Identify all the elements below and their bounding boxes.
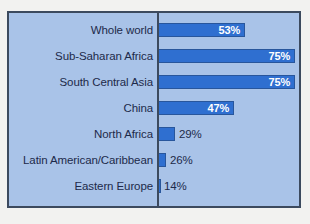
bar-row: China 47% bbox=[9, 95, 299, 121]
bar[interactable]: 75% bbox=[157, 75, 295, 89]
plot-area: Whole world 53% Sub-Saharan Africa 75% S… bbox=[9, 13, 299, 206]
bar-value-label: 14% bbox=[164, 180, 187, 192]
category-label: China bbox=[10, 102, 153, 115]
bar-track: 14% bbox=[157, 173, 299, 199]
bar-row: Latin American/Caribbean 26% bbox=[9, 147, 299, 173]
category-label: South Central Asia bbox=[10, 76, 153, 89]
bar-value-label: 29% bbox=[179, 128, 202, 140]
bar-track: 75% bbox=[157, 43, 299, 69]
bar[interactable]: 75% bbox=[157, 49, 295, 63]
bar-track: 47% bbox=[157, 95, 299, 121]
bar-row: Whole world 53% bbox=[9, 17, 299, 43]
bar[interactable]: 47% bbox=[157, 101, 234, 115]
chart-frame: Whole world 53% Sub-Saharan Africa 75% S… bbox=[7, 11, 301, 208]
bar[interactable] bbox=[157, 127, 175, 141]
bar-track: 53% bbox=[157, 17, 299, 43]
bar[interactable]: 53% bbox=[157, 23, 245, 37]
category-label: North Africa bbox=[10, 128, 153, 141]
bar-value-label: 47% bbox=[208, 102, 229, 114]
bar-value-label: 75% bbox=[269, 76, 290, 88]
bar-row: Eastern Europe 14% bbox=[9, 173, 299, 199]
bar-track: 26% bbox=[157, 147, 299, 173]
bar-row: North Africa 29% bbox=[9, 121, 299, 147]
bar-value-label: 53% bbox=[219, 24, 240, 36]
category-label: Latin American/Caribbean bbox=[10, 154, 153, 167]
category-label: Sub-Saharan Africa bbox=[10, 50, 153, 63]
bar-value-label: 26% bbox=[170, 154, 193, 166]
bar-track: 75% bbox=[157, 69, 299, 95]
category-label: Eastern Europe bbox=[10, 180, 153, 193]
bar-value-label: 75% bbox=[269, 50, 290, 62]
value-axis-line bbox=[157, 13, 159, 206]
bar-track: 29% bbox=[157, 121, 299, 147]
bar-row: South Central Asia 75% bbox=[9, 69, 299, 95]
category-label: Whole world bbox=[10, 24, 153, 37]
bar-row: Sub-Saharan Africa 75% bbox=[9, 43, 299, 69]
